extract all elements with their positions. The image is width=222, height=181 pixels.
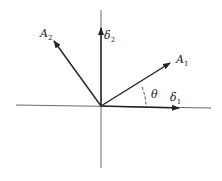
label-A2-sub: 2 — [48, 34, 52, 42]
label-A1-main: A — [176, 53, 184, 66]
label-A2-main: A — [40, 27, 48, 40]
label-delta1-main: δ — [170, 91, 177, 104]
diagram-canvas — [0, 0, 222, 181]
label-theta-main: θ — [151, 88, 158, 101]
label-A2: A2 — [40, 28, 52, 42]
label-A1-sub: 1 — [184, 60, 188, 68]
vector-A2 — [54, 41, 101, 106]
label-delta2-main: δ — [104, 29, 111, 42]
vector-delta1 — [101, 106, 179, 108]
label-theta: θ — [151, 89, 158, 100]
label-delta2: δ2 — [104, 30, 115, 44]
vector-A1 — [101, 63, 170, 106]
label-delta1-sub: 1 — [177, 98, 181, 106]
theta-arc — [142, 87, 146, 106]
label-A1: A1 — [176, 54, 188, 68]
label-delta1: δ1 — [170, 92, 181, 106]
label-delta2-sub: 2 — [111, 36, 115, 44]
vector-diagram: A2 δ2 A1 δ1 θ — [0, 0, 222, 181]
